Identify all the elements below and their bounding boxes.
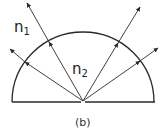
ray-1-outer: [10, 49, 25, 62]
ray-3-inner: [83, 43, 118, 101]
ray-3-outer: [118, 7, 140, 43]
figure-caption: (b): [75, 117, 91, 128]
label-n2: n2: [72, 62, 88, 79]
label-n1: n1: [14, 20, 30, 37]
ray-2-outer: [27, 3, 49, 42]
ray-4-inner: [83, 61, 140, 101]
ray-4-outer: [140, 48, 158, 61]
